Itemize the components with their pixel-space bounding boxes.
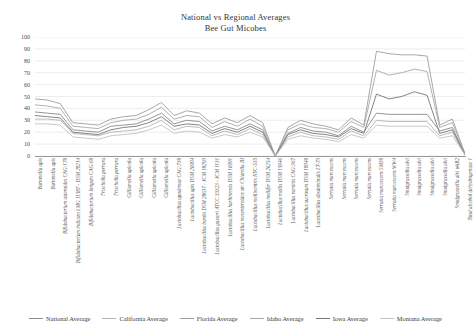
chart-title-line2: Bee Gut Micobes xyxy=(0,23,471,34)
legend-item[interactable]: Idaho Average xyxy=(250,315,304,322)
x-axis-label: Lactobacillus bombi DSM 28637 - JCM 1829… xyxy=(201,158,207,254)
x-axis-label: Bartonella apis xyxy=(37,158,43,190)
legend-swatch-icon xyxy=(316,318,330,319)
x-axis-label: Serratia marcescens xyxy=(341,158,347,200)
x-axis-label: Snodgrassella alvi wkB2 xyxy=(454,158,460,208)
y-axis-tick: 50 xyxy=(24,94,30,100)
x-axis-label: Lactobacillus ruminis CAG:367 xyxy=(290,158,296,223)
x-axis-label: Bifidobacterium asteroides CAG:179 xyxy=(62,158,68,234)
x-axis-label: Snodgrassella alvi xyxy=(429,158,435,196)
x-axis-label: Frischella perrara xyxy=(100,158,106,196)
legend-swatch-icon xyxy=(180,318,194,319)
legend-swatch-icon xyxy=(29,318,43,319)
legend-item[interactable]: Iowa Average xyxy=(316,315,368,322)
y-axis-tick: 30 xyxy=(24,117,30,123)
x-axis-label: Lactobacillus absdominalis LT-73 xyxy=(315,158,321,227)
x-axis-label: Lactobacillus harbinensis DSM 16991 xyxy=(227,158,233,237)
legend-item[interactable]: Montana Average xyxy=(380,315,442,322)
chart-title-line1: National vs Regional Averages xyxy=(181,12,290,22)
x-axis-label: Snodgrassella alvi xyxy=(404,158,410,196)
x-axis-label: Serratia marcescens WW4 xyxy=(391,158,397,212)
y-axis-tick: 10 xyxy=(24,141,30,147)
x-axis-label: Bifidobacterium longum CAG:69 xyxy=(88,158,94,226)
x-axis-label: Lactobacillus apodemae CAG:739 xyxy=(176,158,182,229)
x-axis-label: Snodgrassella alvi xyxy=(442,158,448,196)
y-axis-tick: 0 xyxy=(27,153,30,159)
x-axis-line xyxy=(35,156,466,157)
legend-swatch-icon xyxy=(380,318,394,319)
x-axis-label: Gilliamella apicola xyxy=(151,158,157,198)
legend-swatch-icon xyxy=(250,318,264,319)
legend-label: Idaho Average xyxy=(267,315,304,322)
y-axis-tick: 80 xyxy=(24,58,30,64)
y-axis-tick: 20 xyxy=(24,129,30,135)
x-axis-label: Lactobacillus mesenteroides str. Chiarel… xyxy=(239,158,245,250)
series-lines xyxy=(35,37,465,156)
chart-title: National vs Regional Averages Bee Gut Mi… xyxy=(0,12,471,34)
x-axis-label: Gilliamella apicola xyxy=(163,158,169,198)
legend-item[interactable]: California Average xyxy=(102,315,167,322)
legend-label: National Average xyxy=(46,315,90,322)
x-axis-label: Total alcohol dehydrogenase 1 xyxy=(467,158,473,221)
x-axis-label: Lactobacillus apis DSM 26904 xyxy=(189,158,195,221)
x-axis-label: Gilliamella apicola xyxy=(138,158,144,198)
x-axis-label: Serratia marcescens SM39 xyxy=(378,158,384,213)
y-axis-tick: 100 xyxy=(21,34,30,40)
legend-item[interactable]: Florida Average xyxy=(180,315,238,322)
legend-swatch-icon xyxy=(102,318,116,319)
chart-legend: National AverageCalifornia AverageFlorid… xyxy=(0,315,471,322)
x-axis-label: Bifidobacterium indicum LMG 11587 - DSM … xyxy=(75,158,81,263)
x-axis-labels: Bartonella apisBartonella apisBifidobact… xyxy=(35,158,465,288)
y-axis-tick: 90 xyxy=(24,46,30,52)
legend-label: Iowa Average xyxy=(333,315,368,322)
x-axis-label: Serratia marcescens xyxy=(353,158,359,200)
legend-label: California Average xyxy=(119,315,167,322)
plot-area xyxy=(35,37,465,156)
x-axis-label: Lactobacillus mellifer DSM 26254 xyxy=(265,158,271,229)
legend-item[interactable]: National Average xyxy=(29,315,90,322)
legend-label: Florida Average xyxy=(197,315,238,322)
x-axis-label: Serratia marcescens xyxy=(366,158,372,200)
x-axis-label: Bartonella apis xyxy=(50,158,56,190)
y-axis-tick: 40 xyxy=(24,105,30,111)
x-axis-label: Lactobacillus gasseri ATCC 33323 - JCM 1… xyxy=(214,158,220,255)
y-axis-tick: 70 xyxy=(24,70,30,76)
y-axis-tick: 60 xyxy=(24,82,30,88)
y-axis: 0102030405060708090100 xyxy=(0,37,33,156)
x-axis-label: Frischella perrara xyxy=(113,158,119,196)
legend-label: Montana Average xyxy=(397,315,442,322)
x-axis-label: Serratia marcescens xyxy=(328,158,334,200)
x-axis-label: Snodgrassella alvi xyxy=(416,158,422,196)
x-axis-label: Lactobacillus melliventris NYC-535 xyxy=(252,158,258,231)
x-axis-label: Lactobacillus mellis DSM 15946 xyxy=(277,158,283,225)
x-axis-label: Gilliamella apicola xyxy=(126,158,132,198)
x-axis-label: Lactobacillus sucrosum DSM 10049 xyxy=(303,158,309,232)
